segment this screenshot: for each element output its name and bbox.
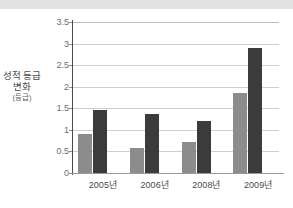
bar-group [72,22,124,173]
bar-series-b [248,48,262,173]
x-axis-tick-label: 2005년 [89,178,117,191]
y-axis-line [72,20,73,175]
chart-title-band [0,0,293,9]
bar-series-a [233,93,247,173]
y-axis-title: 성적 등급 변화 (등급) [0,70,44,103]
bar-series-a [182,142,196,173]
bar-series-b [93,110,107,173]
y-axis-tick-label: 3.5 [43,17,69,27]
bar-series-a [78,134,92,173]
bar-series-b [145,114,159,173]
bar-group [227,22,279,173]
bar-series-a [130,148,144,173]
y-axis-tick-label: 2.5 [43,60,69,70]
y-axis-tick-label: 1.5 [43,103,69,113]
y-axis-tick-label: 0 [43,168,69,178]
y-axis-tick-label: 3 [43,39,69,49]
chart-area: 00.511.522.533.5 2005년2006년2008년2009년 [44,18,287,200]
y-axis-tick-label: 2 [43,82,69,92]
bar-series-b [197,121,211,173]
chart-figure: 성적 등급 변화 (등급) 00.511.522.533.5 2005년2006… [0,0,293,208]
y-axis-tick-label: 1 [43,125,69,135]
x-axis-tick-label: 2006년 [141,178,169,191]
x-axis-tick-label: 2009년 [244,178,272,191]
x-axis-tick-label: 2008년 [192,178,220,191]
bar-group [176,22,228,173]
y-axis-title-line2: 변화 [0,81,44,92]
y-axis-title-line1: 성적 등급 [0,70,44,81]
x-axis-line [72,173,284,174]
y-axis-unit: (등급) [0,92,44,103]
bar-group [124,22,176,173]
y-axis-tick-label: 0.5 [43,146,69,156]
plot-area [72,22,279,173]
y-axis-ticks: 00.511.522.533.5 [44,22,69,173]
